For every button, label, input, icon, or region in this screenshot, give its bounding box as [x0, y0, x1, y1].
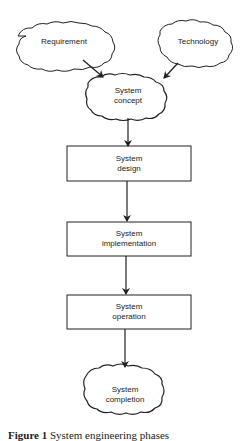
caption-text: System engineering phases: [50, 429, 169, 441]
requirement-text: Requirement: [28, 37, 100, 47]
system-operation-line2: operation: [67, 312, 191, 322]
system-completion-line2: completion: [87, 395, 163, 405]
edge-technology-to-concept: [164, 63, 178, 78]
system-design-line2: design: [67, 164, 191, 174]
system-design-line1: System: [67, 154, 191, 164]
system-implementation-label: System implementation: [67, 229, 191, 249]
system-completion-label: System completion: [87, 385, 163, 405]
requirement-label: Requirement: [28, 37, 100, 47]
system-completion-line1: System: [87, 385, 163, 395]
system-concept-label: System concept: [90, 86, 166, 106]
system-operation-line1: System: [67, 302, 191, 312]
system-concept-line2: concept: [90, 96, 166, 106]
technology-label: Technology: [163, 37, 233, 47]
system-concept-line1: System: [90, 86, 166, 96]
figure-caption: Figure 1 System engineering phases: [8, 429, 169, 441]
system-design-label: System design: [67, 154, 191, 174]
technology-text: Technology: [163, 37, 233, 47]
system-implementation-line2: implementation: [67, 239, 191, 249]
system-implementation-line1: System: [67, 229, 191, 239]
caption-label: Figure 1: [8, 429, 47, 441]
system-operation-label: System operation: [67, 302, 191, 322]
